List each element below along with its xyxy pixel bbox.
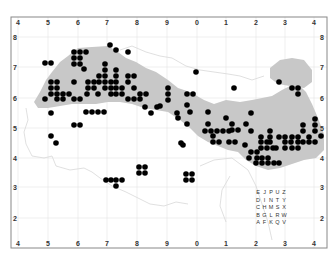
occurrence-dot — [289, 134, 295, 140]
occurrence-dot — [295, 145, 301, 151]
grid-letter: Y — [282, 197, 286, 203]
occurrence-dot — [125, 96, 131, 102]
occurrence-dot — [125, 79, 131, 85]
occurrence-dot — [306, 139, 312, 145]
occurrence-dot — [131, 85, 137, 91]
x-tick-label: 4 — [16, 240, 20, 247]
occurrence-dot — [267, 139, 273, 145]
occurrence-dot — [131, 96, 137, 102]
grid-letter: Q — [275, 219, 280, 225]
occurrence-dot — [184, 121, 190, 127]
occurrence-dot — [136, 164, 142, 170]
occurrence-dot — [83, 109, 89, 115]
occurrence-dot — [143, 91, 149, 97]
occurrence-dot — [60, 91, 66, 97]
grid-letter: H — [263, 204, 267, 210]
occurrence-dot — [157, 103, 163, 109]
grid-letter: V — [282, 219, 286, 225]
y-tick-label: 5 — [320, 125, 324, 132]
occurrence-dot — [89, 109, 95, 115]
x-tick-label: 5 — [46, 240, 50, 247]
occurrence-dot — [214, 128, 220, 134]
occurrence-dot — [193, 69, 199, 75]
occurrence-dot — [54, 85, 60, 91]
x-axis-bottom: 45678901234 — [16, 240, 316, 247]
occurrence-dot — [48, 91, 54, 97]
occurrence-dot — [165, 91, 171, 97]
occurrence-dot — [71, 79, 77, 85]
occurrence-dot — [131, 73, 137, 79]
occurrence-dot — [276, 134, 282, 140]
grid-letter: G — [262, 212, 266, 218]
occurrence-dot — [229, 121, 235, 127]
grid-letter: B — [256, 212, 260, 218]
occurrence-dot — [178, 140, 184, 146]
x-tick-label: 1 — [224, 19, 228, 26]
occurrence-dot — [102, 61, 108, 67]
occurrence-dot — [276, 160, 282, 166]
grid-letter: R — [276, 212, 280, 218]
occurrence-dot — [312, 139, 318, 145]
occurrence-dot — [246, 155, 252, 161]
occurrence-dot — [102, 73, 108, 79]
occurrence-dot — [95, 91, 101, 97]
occurrence-dot — [226, 139, 232, 145]
occurrence-dot — [273, 145, 279, 151]
occurrence-dot — [95, 109, 101, 115]
occurrence-dot — [142, 170, 148, 176]
occurrence-dot — [189, 171, 195, 177]
occurrence-dot — [254, 149, 260, 155]
y-tick-label: 2 — [320, 215, 324, 222]
occurrence-dot — [205, 109, 211, 115]
x-tick-label: 0 — [195, 240, 199, 247]
occurrence-dot — [216, 139, 222, 145]
occurrence-dot — [183, 171, 189, 177]
occurrence-dot — [289, 145, 295, 151]
distribution-map: 45678901234 45678901234 8765432 8765432 … — [0, 0, 336, 259]
occurrence-dot — [210, 139, 216, 145]
x-tick-label: 4 — [312, 240, 316, 247]
occurrence-dot — [258, 145, 264, 151]
x-tick-label: 7 — [105, 240, 109, 247]
occurrence-dot — [295, 91, 301, 97]
y-tick-label: 6 — [320, 95, 324, 102]
occurrence-dot — [189, 177, 195, 183]
occurrence-dot — [288, 139, 294, 145]
x-tick-label: 4 — [312, 19, 316, 26]
y-tick-label: 6 — [13, 95, 17, 102]
occurrence-dot — [148, 110, 154, 116]
y-tick-label: 3 — [320, 184, 324, 191]
occurrence-dot — [259, 160, 265, 166]
occurrence-dot — [295, 85, 301, 91]
occurrence-dot — [312, 128, 318, 134]
occurrence-dot — [136, 170, 142, 176]
occurrence-dot — [271, 160, 277, 166]
occurrence-dot — [66, 91, 72, 97]
letter-grid-legend: EJPUZDINTYCHMSXBGLRWAFKQV — [256, 189, 287, 225]
grid-letter: L — [269, 212, 272, 218]
grid-letter: J — [263, 189, 266, 195]
occurrence-dot — [295, 139, 301, 145]
occurrence-dot — [108, 91, 114, 97]
grid-letter: P — [269, 189, 273, 195]
x-tick-label: 9 — [165, 240, 169, 247]
occurrence-dot — [289, 85, 295, 91]
occurrence-dot — [264, 145, 270, 151]
occurrence-dot — [202, 128, 208, 134]
x-axis-top: 45678901234 — [16, 19, 316, 26]
y-tick-label: 4 — [320, 155, 324, 162]
occurrence-dot — [77, 49, 83, 55]
occurrence-dot — [208, 128, 214, 134]
y-tick-label: 5 — [13, 125, 17, 132]
occurrence-dot — [113, 85, 119, 91]
y-tick-label: 8 — [13, 34, 17, 41]
occurrence-dot — [258, 139, 264, 145]
y-tick-label: 8 — [320, 34, 324, 41]
grid-letter: A — [256, 219, 260, 225]
occurrence-dot — [77, 61, 83, 67]
occurrence-dot — [53, 140, 59, 146]
occurrence-dot — [300, 122, 306, 128]
occurrence-dot — [113, 91, 119, 97]
occurrence-dot — [210, 133, 216, 139]
occurrence-dot — [83, 49, 89, 55]
